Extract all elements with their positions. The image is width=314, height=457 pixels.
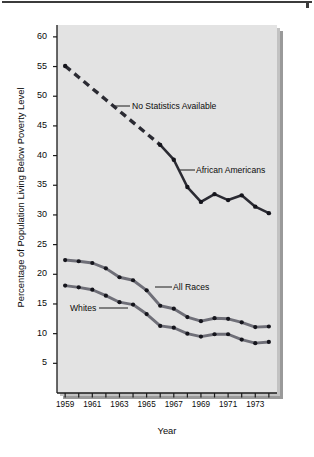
y-axis-title: Percentage of Population Living Below Po… bbox=[15, 73, 26, 323]
annotation-leader-lines bbox=[99, 106, 195, 308]
annotation-african-americans: African Americans bbox=[196, 165, 265, 175]
y-axis-tick-label: 55 bbox=[21, 62, 47, 71]
y-axis-tick-label: 5 bbox=[21, 358, 47, 367]
annotation-all-races: All Races bbox=[173, 282, 209, 292]
chart-figure: 51015202530354045505560 1959196119631965… bbox=[0, 0, 314, 457]
x-axis-ticks bbox=[65, 393, 269, 398]
x-axis-tick-label: 1973 bbox=[238, 400, 272, 409]
axis-lines bbox=[57, 25, 277, 393]
x-axis-title: Year bbox=[107, 425, 227, 436]
y-axis-tick-label: 60 bbox=[21, 32, 47, 41]
annotation-whites: Whites bbox=[70, 303, 96, 313]
annotation-no-statistics: No Statistics Available bbox=[132, 101, 216, 111]
chart-canvas bbox=[0, 0, 314, 457]
y-axis-tick-label: 10 bbox=[21, 329, 47, 338]
